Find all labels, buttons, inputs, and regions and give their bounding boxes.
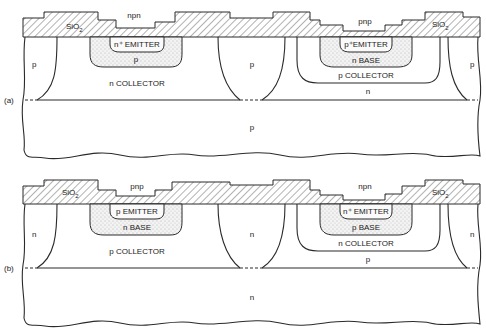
collector-label-a-left: n COLLECTOR [109, 79, 165, 88]
emitter-label-b-left: p EMITTER [116, 207, 158, 216]
panel-b: (b) SiO2 SiO2 pnp npn p EMITTER n BASE p… [4, 180, 481, 327]
well-label-b-right: p [366, 255, 371, 264]
emitter-label-a-left: n⁺ EMITTER [114, 40, 160, 49]
device-type-a-left: npn [127, 11, 140, 20]
isolation-label-b-1: n [32, 230, 36, 239]
base-label-b-left: n BASE [123, 223, 151, 232]
collector-label-b-left: p COLLECTOR [109, 247, 165, 256]
substrate-label-b: n [250, 293, 254, 302]
isolation-label-a-1: p [32, 60, 37, 69]
well-label-a-right: n [366, 87, 370, 96]
substrate-label-a: p [250, 123, 255, 132]
panel-a: (a) SiO2 SiO2 npn pnp n⁺ EMITTER p n COL… [4, 11, 481, 159]
isolation-label-a-3: p [470, 60, 475, 69]
panel-label-a: (a) [4, 96, 14, 105]
device-type-b-right: npn [358, 182, 371, 191]
base-label-b-right: p BASE [352, 223, 380, 232]
oxide-layer-b [23, 180, 480, 204]
panel-label-b: (b) [4, 264, 14, 273]
bipolar-cross-section-figure: (a) SiO2 SiO2 npn pnp n⁺ EMITTER p n COL… [0, 0, 486, 335]
emitter-label-a-right: p⁺EMITTER [344, 40, 388, 49]
collector-label-b-right: n COLLECTOR [338, 239, 394, 248]
device-type-a-right: pnp [358, 17, 372, 26]
isolation-label-b-2: n [250, 230, 254, 239]
device-type-b-left: pnp [130, 182, 144, 191]
base-label-a-right: n BASE [352, 56, 380, 65]
isolation-label-b-3: n [470, 230, 474, 239]
isolation-label-a-2: p [250, 60, 255, 69]
base-label-a-left: p [134, 55, 139, 64]
emitter-label-b-right: n⁺ EMITTER [343, 207, 389, 216]
oxide-layer-a [23, 12, 480, 37]
collector-label-a-right: p COLLECTOR [338, 71, 394, 80]
